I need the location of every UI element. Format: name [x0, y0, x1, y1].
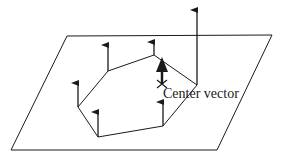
diagram-canvas: [0, 0, 285, 155]
center-vector-label: Center vector: [163, 86, 239, 102]
vertex-arrows: [78, 10, 197, 137]
center-vector-icon: [156, 57, 168, 88]
